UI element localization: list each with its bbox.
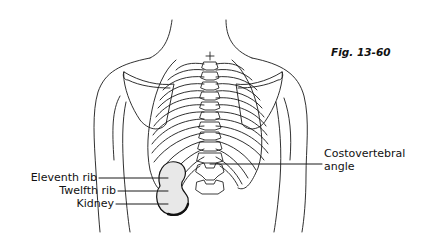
spine: [196, 52, 224, 194]
label-costovertebral-angle: Costovertebral angle: [324, 147, 405, 173]
back-thorax-illustration: [0, 0, 422, 236]
label-cva-line2: angle: [324, 160, 405, 173]
label-twelfth-rib: Twelfth rib: [59, 185, 116, 197]
label-kidney: Kidney: [76, 198, 114, 210]
label-eleventh-rib: Eleventh rib: [31, 172, 97, 184]
label-cva-line1: Costovertebral: [324, 147, 405, 160]
figure-caption: Fig. 13-60: [331, 46, 391, 58]
neck-right-outline: [226, 20, 252, 58]
anatomy-figure: Fig. 13-60 Eleventh rib Twelfth rib Kidn…: [0, 0, 422, 236]
kidney-shape: [157, 162, 189, 215]
neck-left-outline: [150, 20, 172, 58]
